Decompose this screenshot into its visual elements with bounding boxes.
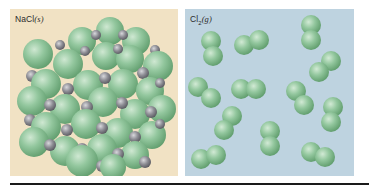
- cl2-molecule: [301, 15, 321, 50]
- cl2-state: (g): [202, 14, 212, 24]
- nacl-lattice-illustration: [10, 9, 178, 176]
- cl2-gas-panel: Cl2(g): [185, 9, 354, 176]
- cl2-label: Cl2(g): [190, 14, 212, 26]
- nacl-label: NaCl(s): [15, 14, 44, 24]
- cl2-molecule: [286, 81, 314, 115]
- nacl-state: (s): [34, 14, 43, 24]
- nacl-solid-panel: NaCl(s): [10, 9, 178, 176]
- cl2-molecules-illustration: [185, 9, 354, 176]
- cl2-molecule: [231, 79, 266, 99]
- nacl-formula: NaCl: [15, 14, 34, 24]
- cl2-molecule: [201, 31, 223, 66]
- cl2-formula: Cl: [190, 14, 198, 24]
- cl2-molecule: [301, 142, 335, 167]
- lattice-spheres: [17, 17, 176, 176]
- cl2-molecule: [188, 77, 221, 108]
- cl2-molecule: [309, 51, 341, 82]
- bottom-rule-divider: [10, 183, 369, 185]
- cl2-molecule: [234, 30, 269, 55]
- cl2-molecule: [321, 97, 343, 132]
- cl2-molecule: [191, 145, 226, 169]
- cl2-molecule: [260, 121, 280, 156]
- cl2-molecule: [214, 106, 242, 140]
